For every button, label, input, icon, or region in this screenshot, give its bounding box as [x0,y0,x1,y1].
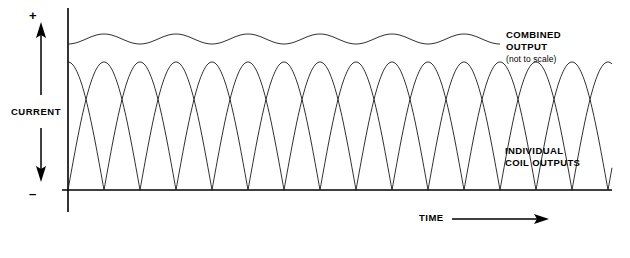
individual-coil-line2: COIL OUTPUTS [505,157,580,169]
combined-output-annotation: COMBINED OUTPUT (not to scale) [506,29,561,65]
combined-output-curve [68,34,500,44]
combined-output-line2: OUTPUT [506,41,561,53]
individual-coil-annotation: INDIVIDUAL COIL OUTPUTS [505,145,580,169]
individual-coil-line1: INDIVIDUAL [505,145,580,157]
coil-output-a-curve [68,62,612,190]
coil-output-b-curve [68,62,612,190]
negative-sign-label: – [29,186,36,201]
combined-output-note: (not to scale) [506,53,561,65]
combined-output-line1: COMBINED [506,29,561,41]
waveform-figure: + CURRENT – COMBINED OUTPUT (not to scal… [0,0,630,258]
positive-sign-label: + [29,8,37,23]
current-axis-label: CURRENT [11,106,61,117]
axis-arrows [36,22,549,224]
time-axis-label: TIME [419,212,444,223]
